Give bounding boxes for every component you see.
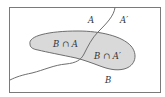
label-set-b: B	[105, 76, 111, 85]
label-set-a-complement: A′	[120, 16, 128, 25]
label-b-intersect-a: B ∩ A	[53, 40, 78, 49]
label-b-intersect-a-complement: B ∩ A′	[94, 52, 121, 61]
label-set-a: A	[88, 16, 94, 25]
diagram-graphics	[0, 0, 165, 97]
venn-diagram: A A′ B ∩ A B ∩ A′ B	[0, 0, 165, 97]
